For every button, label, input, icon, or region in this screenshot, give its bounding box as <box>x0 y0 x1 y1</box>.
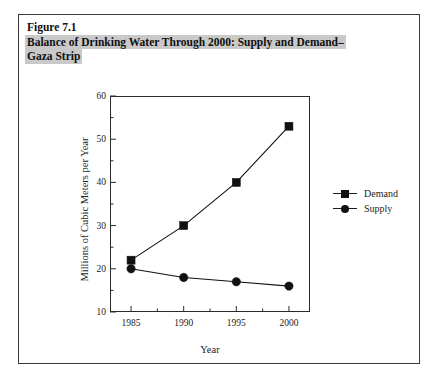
legend-label-demand: Demand <box>364 188 398 199</box>
caption-line-title-2: Gaza Strip <box>25 49 82 64</box>
legend-label-supply: Supply <box>364 203 392 214</box>
data-point-supply-2000 <box>285 282 293 290</box>
data-point-supply-1995 <box>232 278 240 286</box>
chart-canvas <box>110 96 310 312</box>
x-tick-label-1985: 1985 <box>111 318 151 328</box>
caption-line-number: Figure 7.1 <box>25 20 79 35</box>
y-tick-label-60: 60 <box>84 91 106 101</box>
circle-marker-icon <box>333 203 357 215</box>
y-axis-ticks <box>110 96 116 312</box>
data-point-supply-1990 <box>179 273 187 281</box>
data-point-demand-2000 <box>285 122 293 130</box>
x-tick-label-2000: 2000 <box>269 318 309 328</box>
x-axis-title: Year <box>110 344 310 355</box>
data-point-demand-1985 <box>127 256 135 264</box>
figure-caption: Figure 7.1 Balance of Drinking Water Thr… <box>25 20 375 64</box>
data-point-supply-1985 <box>127 265 135 273</box>
legend-item-demand: Demand <box>333 186 398 201</box>
x-axis-ticks <box>131 306 289 312</box>
series-markers <box>127 122 293 290</box>
square-marker-icon <box>333 188 357 200</box>
x-tick-label-1990: 1990 <box>164 318 204 328</box>
data-point-demand-1995 <box>232 178 240 186</box>
series-lines <box>131 126 289 286</box>
legend-item-supply: Supply <box>333 201 398 216</box>
caption-line-title-1: Balance of Drinking Water Through 2000: … <box>25 35 346 50</box>
data-point-demand-1990 <box>180 222 188 230</box>
chart-legend: Demand Supply <box>333 186 398 216</box>
y-axis-title: Millions of Cubic Meters per Year <box>79 110 90 310</box>
x-tick-label-1995: 1995 <box>216 318 256 328</box>
